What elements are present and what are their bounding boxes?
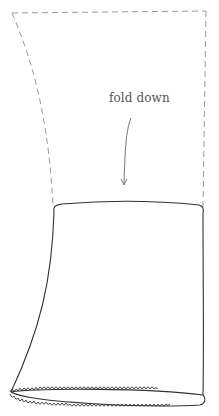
- fold-down-arrow-icon: [121, 118, 131, 185]
- diagram-canvas: fold down: [0, 0, 219, 416]
- fold-area-dashed-outline: [12, 11, 206, 208]
- sleeve-tube-outline: [11, 201, 205, 405]
- fold-down-label: fold down: [109, 91, 170, 105]
- serged-hem-stitches: [10, 387, 170, 406]
